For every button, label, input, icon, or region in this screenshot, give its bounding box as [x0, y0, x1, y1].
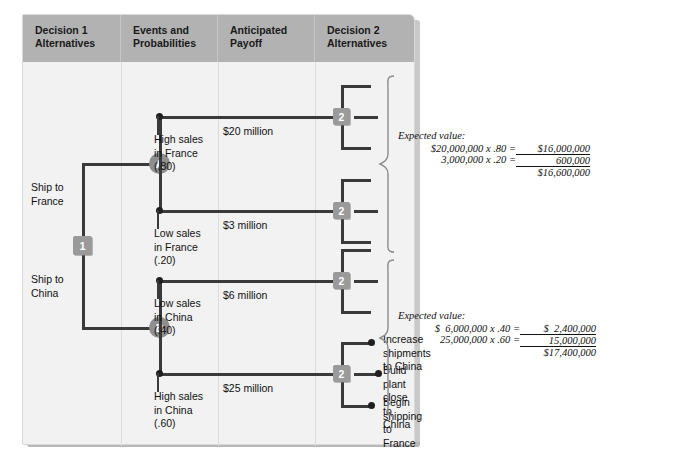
decision-tree-figure: Decision 1 Alternatives Events and Proba… [0, 0, 673, 466]
branch-ship-to-china [82, 327, 159, 330]
d2-branch-begin-shipping [341, 405, 371, 408]
label-ship-to-china: Ship to China [31, 273, 64, 300]
branch-low-sales-france [159, 210, 336, 213]
ev1-total: $16,600,000 [516, 166, 590, 178]
label-prob-high-sales-france: (.80) [154, 160, 176, 174]
column-header-decision1: Decision 1 Alternatives [23, 15, 121, 62]
brace-france [378, 74, 400, 254]
branch-high-sales-china [159, 373, 336, 376]
label-prob-low-sales-france: (.20) [154, 254, 176, 268]
ev1-row1-right: $16,000,000 [516, 143, 590, 154]
label-event-low-sales-france: Low sales in France [154, 227, 201, 254]
column-header-decision2: Decision 2 Alternatives [315, 15, 414, 62]
d2-stub-2b [354, 210, 378, 213]
ev2-row1-right: $ 2,400,000 [520, 323, 596, 334]
column-header-events: Events and Probabilities [121, 15, 218, 62]
payoff-high-sales-france: $20 million [223, 125, 273, 137]
column-header-row: Decision 1 Alternatives Events and Proba… [23, 15, 414, 62]
expected-value-title-2: Expected value: [398, 310, 596, 321]
d2-stub-1b [354, 116, 378, 119]
branch-high-sales-france [159, 116, 336, 119]
ev1-row1-left: $20,000,000 x .80 = [398, 143, 516, 154]
column-divider-3 [315, 62, 316, 446]
node-decision-2-china-low[interactable]: 2 [333, 272, 350, 289]
diagram-panel: Decision 1 Alternatives Events and Proba… [22, 14, 415, 445]
expected-value-total-row: $16,600,000 [398, 166, 590, 178]
column-divider-2 [218, 62, 219, 446]
d2-dot-begin-shipping [368, 402, 375, 409]
brace-china [378, 258, 400, 418]
d2-stub-1c [341, 147, 371, 150]
label-event-low-sales-china: Low sales in China [154, 297, 201, 324]
panel-shadow-right [415, 20, 420, 447]
d2-stub-2a [341, 179, 371, 182]
expected-value-block-china: Expected value: $ 6,000,000 x .40 = $ 2,… [398, 310, 596, 358]
d2-stub-1a [341, 85, 371, 88]
payoff-high-sales-china: $25 million [223, 382, 273, 394]
ev1-row2-right: 600,000 [516, 154, 590, 166]
column-header-payoff: Anticipated Payoff [218, 15, 315, 62]
node-decision-2-france-high[interactable]: 2 [333, 108, 350, 125]
branch-low-sales-china [159, 280, 336, 283]
expected-value-title-1: Expected value: [398, 130, 590, 141]
payoff-low-sales-france: $3 million [223, 219, 267, 231]
d2-stub-3c [341, 311, 371, 314]
branch-ship-to-france [82, 163, 159, 166]
node-decision-1[interactable]: 1 [73, 236, 92, 255]
ev2-row1-left: $ 6,000,000 x .40 = [398, 323, 520, 334]
d2-dot-increase-shipments [368, 339, 375, 346]
expected-value-row: $ 6,000,000 x .40 = $ 2,400,000 [398, 323, 596, 334]
column-divider-1 [121, 62, 122, 446]
label-event-high-sales-france: High sales in France [154, 133, 203, 160]
d2-branch-increase-shipments [341, 342, 371, 345]
expected-value-row: $20,000,000 x .80 = $16,000,000 [398, 143, 590, 154]
ev2-row2-left: 25,000,000 x .60 = [398, 334, 520, 346]
d2-stub-2c [341, 241, 371, 244]
expected-value-row: 3,000,000 x .20 = 600,000 [398, 154, 590, 166]
expected-value-row: 25,000,000 x .60 = 15,000,000 [398, 334, 596, 346]
label-ship-to-france: Ship to France [31, 181, 64, 208]
label-prob-low-sales-china: (.40) [154, 324, 176, 338]
label-prob-high-sales-china: (.60) [154, 417, 176, 431]
node-decision-2-france-low[interactable]: 2 [333, 202, 350, 219]
payoff-low-sales-china: $6 million [223, 289, 267, 301]
ev1-row2-left: 3,000,000 x .20 = [398, 154, 516, 166]
d2-stub-3b [354, 280, 378, 283]
ev2-total: $17,400,000 [520, 346, 596, 358]
label-event-high-sales-china: High sales in China [154, 390, 203, 417]
d2-stub-3a [341, 249, 371, 252]
expected-value-total-row: $17,400,000 [398, 346, 596, 358]
node-decision-2-china-high[interactable]: 2 [333, 365, 350, 382]
ev2-row2-right: 15,000,000 [520, 334, 596, 346]
expected-value-block-france: Expected value: $20,000,000 x .80 = $16,… [398, 130, 590, 178]
